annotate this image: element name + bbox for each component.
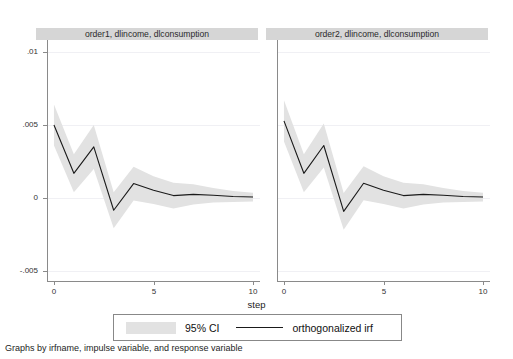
- x-tick-label: 10: [241, 287, 265, 296]
- y-axis-line-order2: [277, 40, 278, 281]
- panel-title-order2: order2, dlincome, dlconsumption: [266, 28, 488, 40]
- y-axis-line-order1: [47, 40, 48, 281]
- series-plot-order1: [47, 40, 260, 281]
- ci-band: [284, 100, 483, 229]
- legend-irf-line: [236, 327, 283, 328]
- x-tick-label: 0: [272, 287, 296, 296]
- y-tick-label: .005: [0, 120, 44, 129]
- y-tick-label: 0: [0, 193, 44, 202]
- x-tick-label: 10: [471, 287, 495, 296]
- x-axis-title: step: [0, 299, 513, 310]
- panel-title-order1: order1, dlincome, dlconsumption: [36, 28, 258, 40]
- series-plot-order2: [277, 40, 490, 281]
- stata-irf-graph: order1, dlincome, dlconsumption order2, …: [0, 0, 513, 359]
- y-tick-label: -.005: [0, 266, 44, 275]
- legend-ci-swatch: [126, 322, 176, 334]
- y-tick-label-wrap: -.005: [0, 266, 44, 275]
- x-tick-label: 5: [142, 287, 166, 296]
- ci-band: [54, 104, 253, 228]
- x-axis-line-order2: [277, 281, 490, 282]
- x-axis-line-order1: [47, 281, 260, 282]
- y-tick-label: .01: [0, 47, 44, 56]
- legend-ci-label: 95% CI: [185, 322, 219, 334]
- legend: 95% CI orthogonalized irf: [113, 314, 402, 341]
- legend-irf-label: orthogonalized irf: [292, 322, 373, 334]
- x-tick-label: 5: [372, 287, 396, 296]
- figure-caption: Graphs by irfname, impulse variable, and…: [5, 343, 243, 353]
- y-tick-label-wrap: .005: [0, 120, 44, 129]
- cut-off-window-title: [0, 0, 513, 2]
- y-tick-label-wrap: .01: [0, 47, 44, 56]
- x-tick-label: 0: [42, 287, 66, 296]
- y-tick-label-wrap: 0: [0, 193, 44, 202]
